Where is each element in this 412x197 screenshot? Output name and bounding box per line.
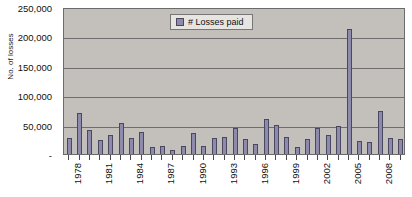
bar: [284, 137, 289, 154]
x-axis-tick: [161, 155, 162, 160]
x-axis-tick: [172, 155, 173, 160]
x-axis-tick: [234, 155, 235, 160]
x-axis-tick: [307, 155, 308, 160]
bar: [170, 150, 175, 154]
bar: [139, 132, 144, 154]
bar: [336, 126, 341, 154]
x-axis-tick: [369, 155, 370, 160]
y-axis-tick-label: 200,000: [18, 32, 52, 43]
x-axis-tick: [338, 155, 339, 160]
x-axis-tick-label: 1981: [103, 163, 114, 184]
x-axis: 1978198119841987199019931996199920022005…: [63, 155, 405, 197]
bar: [264, 119, 269, 154]
x-axis-tick-label: 1996: [259, 163, 270, 184]
y-axis-tick-labels: -50,000100,000150,000200,000250,000: [0, 0, 62, 160]
legend-swatch-icon: [176, 18, 184, 26]
bar: [181, 146, 186, 154]
bar: [367, 142, 372, 154]
x-axis-tick: [327, 155, 328, 160]
x-axis-tick: [89, 155, 90, 160]
y-axis-tick-label: 250,000: [18, 3, 52, 14]
x-axis-tick: [265, 155, 266, 160]
bar: [326, 135, 331, 154]
x-axis-tick: [213, 155, 214, 160]
x-axis-tick-label: 1993: [228, 163, 239, 184]
y-axis-tick-label: 150,000: [18, 61, 52, 72]
bar: [108, 135, 113, 154]
bar: [243, 139, 248, 154]
bar: [253, 144, 258, 154]
x-axis-tick: [224, 155, 225, 160]
bar: [119, 123, 124, 154]
x-axis-tick-label: 1999: [290, 163, 301, 184]
bar: [233, 128, 238, 154]
bar: [305, 139, 310, 154]
bars-layer: [64, 9, 404, 154]
x-axis-tick: [389, 155, 390, 160]
x-axis-tick-label: 2005: [352, 163, 363, 184]
x-axis-tick-label: 1987: [165, 163, 176, 184]
bar: [212, 138, 217, 154]
legend-label: # Losses paid: [188, 17, 244, 27]
x-axis-tick: [286, 155, 287, 160]
bar: [274, 125, 279, 154]
x-axis-tick: [203, 155, 204, 160]
x-axis-tick: [255, 155, 256, 160]
x-axis-tick: [68, 155, 69, 160]
chart-legend: # Losses paid: [170, 14, 253, 30]
losses-paid-bar-chart: No. of losses -50,000100,000150,000200,0…: [0, 0, 412, 197]
plot-area: [63, 8, 405, 155]
x-axis-tick: [120, 155, 121, 160]
y-axis-tick-label: -: [49, 150, 52, 161]
x-axis-tick: [296, 155, 297, 160]
x-axis-tick-label: 2008: [383, 163, 394, 184]
bar: [222, 137, 227, 154]
x-axis-tick: [182, 155, 183, 160]
x-axis-tick-label: 1990: [197, 163, 208, 184]
x-axis-tick: [348, 155, 349, 160]
bar: [388, 138, 393, 154]
x-axis-tick-label: 1978: [72, 163, 83, 184]
x-axis-tick: [193, 155, 194, 160]
x-axis-tick: [317, 155, 318, 160]
bar: [191, 133, 196, 154]
bar: [378, 111, 383, 154]
x-axis-tick: [110, 155, 111, 160]
bar: [347, 29, 352, 154]
bar: [87, 130, 92, 154]
bar: [160, 146, 165, 154]
y-axis-tick-label: 100,000: [18, 91, 52, 102]
x-axis-tick-label: 1984: [134, 163, 145, 184]
x-axis-tick-label: 2002: [321, 163, 332, 184]
x-axis-tick: [141, 155, 142, 160]
bar: [398, 139, 403, 154]
bar: [295, 147, 300, 154]
x-axis-tick: [244, 155, 245, 160]
bar: [67, 138, 72, 154]
x-axis-tick: [275, 155, 276, 160]
bar: [77, 113, 82, 154]
y-axis-tick-label: 50,000: [23, 120, 52, 131]
chart-title: [150, 0, 350, 4]
bar: [150, 147, 155, 154]
x-axis-tick: [358, 155, 359, 160]
x-axis-tick: [151, 155, 152, 160]
bar: [357, 141, 362, 154]
x-axis-tick: [99, 155, 100, 160]
x-axis-tick: [79, 155, 80, 160]
bar: [315, 128, 320, 154]
bar: [129, 138, 134, 154]
x-axis-tick: [130, 155, 131, 160]
x-axis-tick: [400, 155, 401, 160]
bar: [98, 140, 103, 154]
x-axis-tick: [379, 155, 380, 160]
bar: [201, 146, 206, 154]
